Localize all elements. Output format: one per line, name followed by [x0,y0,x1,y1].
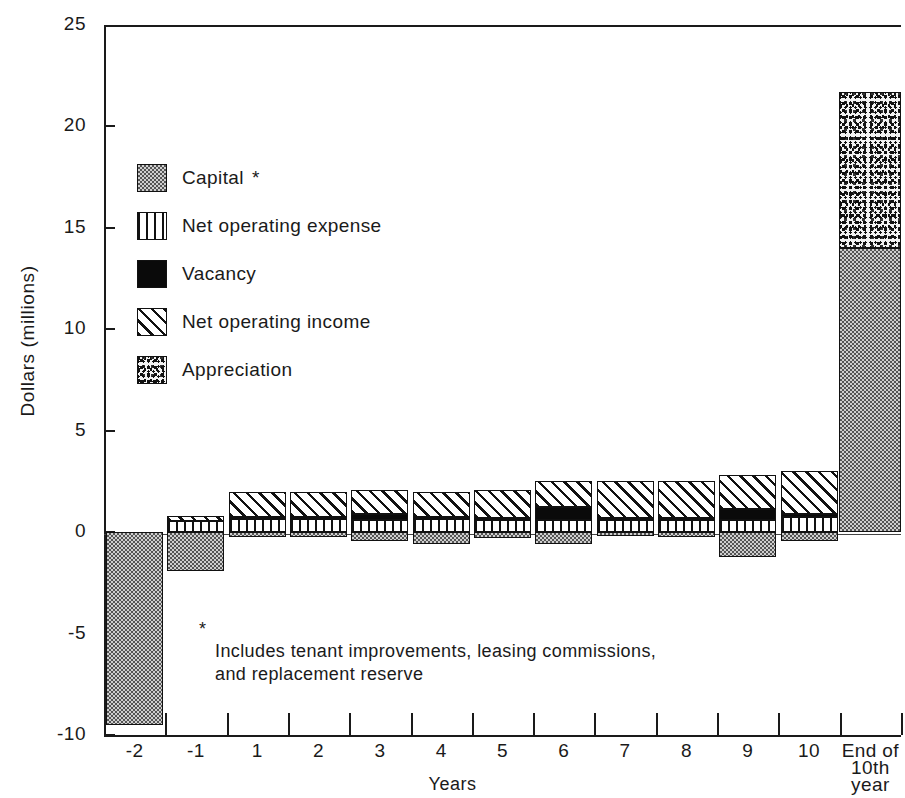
bar-segment-capital [351,532,408,541]
y-axis-tick [104,125,115,127]
legend-label: Vacancy [182,263,256,285]
bar-segment-noi [719,475,776,508]
y-axis-tick-label: 0 [42,520,86,542]
legend-label: Net operating expense [182,215,382,237]
x-axis-tick-label: 5 [472,742,533,759]
x-axis-tick [533,713,535,735]
bar-segment-noi [167,516,224,521]
bar-segment-expense [351,520,408,532]
x-axis-tick-label-line: 4 [411,742,472,759]
x-axis-tick [717,713,719,735]
legend-swatch-expense [137,212,167,240]
bar-segment-capital [413,532,470,544]
y-axis-tick-label: -5 [42,622,86,644]
bar-segment-vacancy [229,517,286,519]
legend-item: Net operating expense [137,208,382,243]
bar-segment-noi [474,490,531,518]
bar-segment-noi [535,481,592,506]
x-axis-tick-label: 3 [349,742,410,759]
bar-segment-capital [106,532,163,725]
bar-segment-capital [290,532,347,537]
bar-segment-expense [597,520,654,532]
bar-segment-expense [290,519,347,532]
x-axis-tick [778,713,780,735]
x-axis-tick [227,713,229,735]
bar-segment-vacancy [597,518,654,520]
x-axis-tick-label-line: 6 [533,742,594,759]
footnote-text: Includes tenant improvements, leasing co… [215,641,656,684]
bar-segment-vacancy [351,514,408,520]
bar-segment-expense [781,517,838,532]
legend-footnote-marker: * [252,167,259,189]
bottom-caption [0,790,905,798]
x-axis-tick-label: 7 [594,742,655,759]
bar-segment-appreciation [839,92,901,248]
bar-segment-vacancy [535,507,592,520]
x-axis-tick-label: 10 [778,742,839,759]
legend-item: Net operating income [137,304,382,339]
bar-segment-noi [229,492,286,517]
bar-segment-vacancy [474,518,531,520]
x-axis-tick-label-line: 1 [227,742,288,759]
bar-segment-expense [413,519,470,532]
x-axis-tick-label-line: 3 [349,742,410,759]
bar-segment-capital [535,532,592,544]
bar-segment-noi [658,481,715,518]
legend-swatch-vacancy [137,260,167,288]
legend-label: Net operating income [182,311,371,333]
x-axis-tick-label: 2 [288,742,349,759]
y-axis-tick-label: -10 [42,723,86,745]
x-axis-tick [594,713,596,735]
x-axis-tick [349,713,351,735]
bar-segment-expense [229,519,286,532]
x-axis-tick [411,713,413,735]
bar-segment-expense [535,520,592,532]
bar-segment-capital [474,532,531,538]
x-axis-tick-label-line: 8 [656,742,717,759]
bar-segment-capital [167,532,224,571]
x-axis-tick-label: -2 [104,742,165,759]
x-axis-tick-label-line: 9 [717,742,778,759]
bar-segment-expense [167,521,224,532]
bar-segment-capital [229,532,286,537]
bar-segment-expense [474,520,531,532]
bar-segment-expense [719,520,776,532]
x-axis-tick-label: 1 [227,742,288,759]
y-axis-tick-label: 25 [42,13,86,35]
y-axis-tick-label: 10 [42,317,86,339]
x-axis-tick-label: -1 [165,742,226,759]
bar-segment-capital [719,532,776,557]
x-axis-tick-label: 4 [411,742,472,759]
bar-segment-vacancy [290,517,347,519]
x-axis-tick [165,713,167,735]
y-axis-tick [104,328,115,330]
bar-segment-vacancy [781,514,838,516]
legend-swatch-noi [137,308,167,336]
x-axis-tick-label-line: -2 [104,742,165,759]
x-axis-tick [656,713,658,735]
y-axis-tick [104,227,115,229]
chart-legend: Capital*Net operating expenseVacancyNet … [137,160,382,400]
x-axis-line [104,735,901,737]
x-axis-tick [288,713,290,735]
x-axis-tick [901,713,903,735]
bar-segment-expense [658,520,715,532]
bar-segment-vacancy [719,509,776,520]
bar-segment-noi [351,490,408,515]
bar-segment-noi [290,492,347,517]
x-axis-tick-label-line: 7 [594,742,655,759]
bar-segment-capital [597,532,654,536]
bar-segment-noi [597,481,654,518]
footnote-marker: * [199,618,206,641]
bar-segment-capital [781,532,838,541]
y-axis-tick [104,430,115,432]
legend-swatch-capital [137,164,167,192]
bar-segment-capital [839,248,901,532]
y-axis-tick-label: 15 [42,216,86,238]
x-axis-tick [472,713,474,735]
y-axis-tick-label: 5 [42,419,86,441]
legend-swatch-appreciation [137,356,167,384]
x-axis-tick-label-line: 2 [288,742,349,759]
legend-item: Appreciation [137,352,382,387]
legend-item: Vacancy [137,256,382,291]
